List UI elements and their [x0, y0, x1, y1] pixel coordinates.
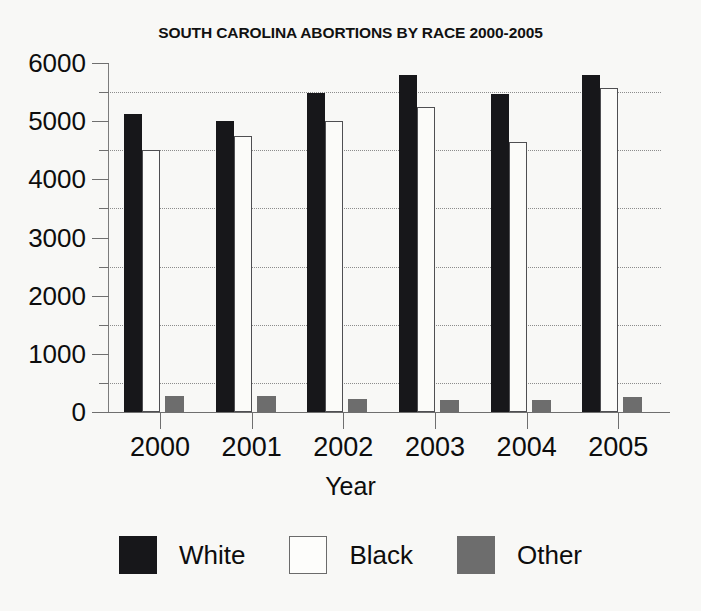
x-axis-title: Year: [0, 472, 701, 501]
legend-swatch-other: [457, 536, 495, 574]
y-tick-minor: [99, 150, 109, 151]
y-tick-minor: [99, 267, 109, 268]
chart-page: SOUTH CAROLINA ABORTIONS BY RACE 2000-20…: [0, 0, 701, 611]
x-tick: [435, 413, 436, 429]
chart-legend: WhiteBlackOther: [0, 536, 701, 574]
y-tick-minor: [99, 383, 109, 384]
legend-item-white[interactable]: White: [119, 536, 289, 574]
y-tick-major: [92, 296, 109, 297]
x-tick: [343, 413, 344, 429]
legend-swatch-black: [289, 536, 327, 574]
bar-black: [417, 107, 435, 412]
bar-other: [348, 399, 367, 412]
y-tick-major: [92, 354, 109, 355]
bar-other: [532, 400, 551, 412]
x-tick: [618, 413, 619, 429]
plot-area: [110, 63, 660, 412]
x-tick: [252, 413, 253, 429]
bar-black: [234, 136, 252, 412]
x-tick: [527, 413, 528, 429]
chart-title: SOUTH CAROLINA ABORTIONS BY RACE 2000-20…: [0, 24, 701, 42]
bar-white: [399, 75, 417, 412]
y-tick-major: [92, 238, 109, 239]
y-tick-major: [92, 179, 109, 180]
y-axis-tick-label: 0: [0, 399, 86, 425]
y-tick-major: [92, 121, 109, 122]
legend-label-black: Black: [349, 540, 413, 571]
bar-other: [623, 397, 642, 412]
y-tick-minor: [99, 92, 109, 93]
bar-white: [216, 121, 234, 412]
bar-other: [165, 396, 184, 412]
y-axis-tick-label: 2000: [0, 283, 86, 309]
x-axis-line: [92, 412, 670, 413]
y-axis-tick-label: 6000: [0, 50, 86, 76]
y-tick-minor: [99, 325, 109, 326]
y-tick-minor: [99, 208, 109, 209]
legend-item-black[interactable]: Black: [289, 536, 457, 574]
legend-swatch-white: [119, 536, 157, 574]
bar-black: [142, 150, 160, 412]
bar-black: [600, 88, 618, 412]
bar-white: [124, 114, 142, 412]
y-axis-tick-label: 1000: [0, 341, 86, 367]
legend-label-white: White: [179, 540, 245, 571]
bar-black: [325, 121, 343, 412]
x-tick: [160, 413, 161, 429]
legend-item-other[interactable]: Other: [457, 536, 582, 574]
bar-white: [307, 93, 325, 412]
x-axis-tick-label: 2005: [563, 434, 673, 461]
bar-other: [257, 396, 276, 412]
y-tick-major: [92, 63, 109, 64]
bar-other: [440, 400, 459, 413]
y-tick-major: [92, 412, 109, 413]
y-axis-tick-label: 3000: [0, 225, 86, 251]
bar-black: [509, 142, 527, 412]
legend-label-other: Other: [517, 540, 582, 571]
bar-white: [582, 75, 600, 412]
bar-white: [491, 94, 509, 412]
y-axis-tick-label: 5000: [0, 108, 86, 134]
y-axis-tick-label: 4000: [0, 166, 86, 192]
